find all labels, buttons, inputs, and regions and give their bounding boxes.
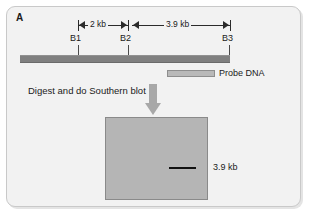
probe-dna-bar [167,70,215,77]
probe-dna-label: Probe DNA [219,69,265,78]
dim-arrow-left-2kb [79,21,85,29]
panel-letter: A [16,13,23,23]
southern-blot-box [105,117,208,200]
dim-label-39kb: 3.9 kb [164,20,191,29]
digest-caption: Digest and do Southern blot [28,86,146,96]
site-label-b1: B1 [70,34,81,43]
down-arrow-icon [149,84,157,104]
dim-label-2kb: 2 kb [88,20,108,29]
dim-cap-b2 [128,20,129,31]
blot-band-label: 3.9 kb [213,163,238,172]
site-label-b3: B3 [222,34,233,43]
dim-arrow-right-2kb [121,21,127,29]
down-arrow-head-icon [145,103,161,115]
genomic-dna-bar [20,55,230,63]
dim-arrow-left-39kb [133,21,139,29]
dim-cap-b3 [230,20,231,31]
southern-blot-figure: A 2 kb 3.9 kb B1 B2 B3 Probe DNA Digest … [0,0,314,222]
dim-arrow-right-39kb [223,21,229,29]
blot-band [169,167,196,169]
site-label-b2: B2 [120,34,131,43]
